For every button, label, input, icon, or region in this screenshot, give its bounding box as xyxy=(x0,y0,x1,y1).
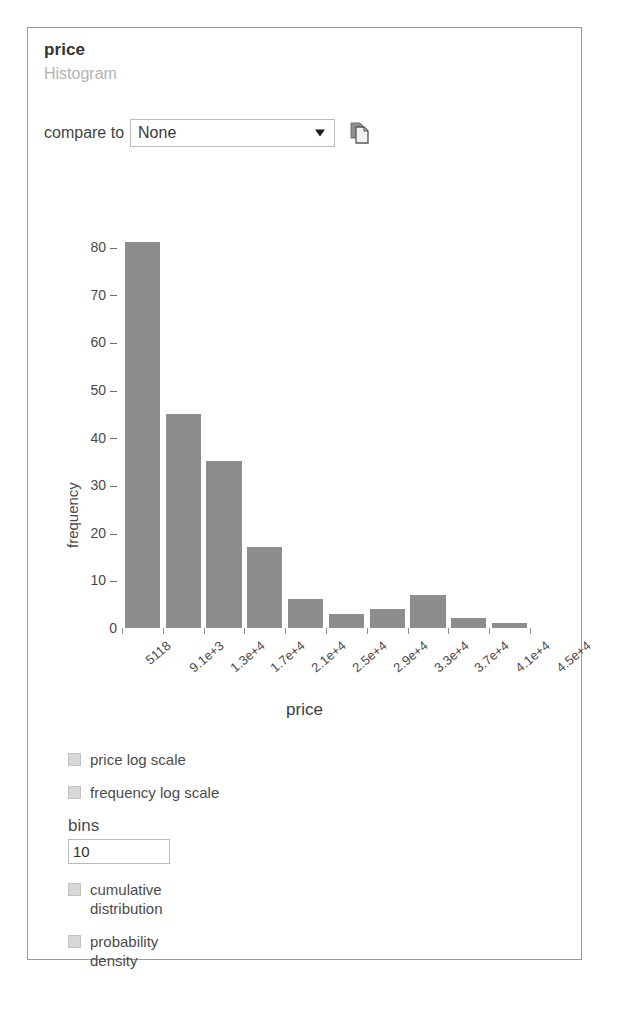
x-axis-tick-mark xyxy=(448,628,449,634)
bar xyxy=(329,614,364,628)
bar-slot xyxy=(408,228,449,628)
x-axis-tick-mark xyxy=(408,628,409,634)
x-axis-tick-label: 1.3e+4 xyxy=(227,638,267,675)
bar-slot xyxy=(326,228,367,628)
bins-input[interactable]: 10 xyxy=(68,839,170,864)
x-axis-tick-label: 2.5e+4 xyxy=(349,638,389,675)
x-axis-tick-label: 5118 xyxy=(143,638,174,667)
x-axis-tick-label: 9.1e+3 xyxy=(186,638,226,675)
x-axis-tick-label: 4.5e+4 xyxy=(553,638,593,675)
page-title: price xyxy=(44,40,85,60)
checkbox-icon xyxy=(68,935,81,948)
bar xyxy=(125,242,160,628)
checkbox-icon xyxy=(68,753,81,766)
histogram-panel: price Histogram compare to None frequenc… xyxy=(27,27,582,960)
compare-to-select[interactable]: None xyxy=(130,119,335,147)
compare-to-row: compare to None xyxy=(44,118,371,148)
x-axis-tick-label: 4.1e+4 xyxy=(513,638,553,675)
bar-slot xyxy=(448,228,489,628)
y-axis-tick: 20 xyxy=(90,525,122,541)
bar xyxy=(288,599,323,628)
y-axis-tick: 60 xyxy=(90,334,122,350)
cumulative-distribution-checkbox[interactable]: cumulative distribution xyxy=(68,880,368,918)
y-axis-tick: 10 xyxy=(90,572,122,588)
x-axis-tick-label: 3.7e+4 xyxy=(472,638,512,675)
histogram-chart: frequency 0102030405060708051189.1e+31.3… xyxy=(28,173,581,748)
chart-type-subtitle: Histogram xyxy=(44,65,117,83)
bar xyxy=(166,414,201,628)
x-axis-tick-mark xyxy=(204,628,205,634)
x-axis-tick-label: 2.1e+4 xyxy=(309,638,349,675)
x-axis-tick-mark xyxy=(122,628,123,634)
price-log-scale-checkbox[interactable]: price log scale xyxy=(68,750,368,769)
y-axis-tick: 50 xyxy=(90,382,122,398)
x-axis-tick-label: 2.9e+4 xyxy=(390,638,430,675)
x-axis-tick-mark xyxy=(367,628,368,634)
cumulative-distribution-label: cumulative distribution xyxy=(90,880,180,918)
bar xyxy=(492,623,527,628)
bar xyxy=(451,618,486,628)
x-axis-tick-mark xyxy=(244,628,245,634)
bins-label: bins xyxy=(68,816,368,836)
bar xyxy=(370,609,405,628)
y-axis-tick: 30 xyxy=(90,477,122,493)
x-axis-tick-mark xyxy=(285,628,286,634)
bar-slot xyxy=(489,228,530,628)
bar xyxy=(410,595,445,628)
bar-slot xyxy=(367,228,408,628)
bar-series xyxy=(122,228,530,628)
bar-slot xyxy=(122,228,163,628)
checkbox-icon xyxy=(68,883,81,896)
chevron-down-icon xyxy=(315,130,325,137)
bar-slot xyxy=(285,228,326,628)
y-axis-tick: 70 xyxy=(90,287,122,303)
x-axis-tick-mark xyxy=(163,628,164,634)
compare-to-value: None xyxy=(131,124,176,142)
bar-slot xyxy=(204,228,245,628)
y-axis-label: frequency xyxy=(64,482,81,548)
x-axis-tick-mark xyxy=(489,628,490,634)
compare-to-label: compare to xyxy=(44,124,124,142)
bar-slot xyxy=(163,228,204,628)
bar xyxy=(206,461,241,628)
x-axis-tick-mark xyxy=(326,628,327,634)
x-axis-label: price xyxy=(28,700,581,720)
price-log-scale-label: price log scale xyxy=(90,750,186,769)
copy-icon[interactable] xyxy=(349,121,371,145)
x-axis-tick-mark xyxy=(530,628,531,634)
bar xyxy=(247,547,282,628)
frequency-log-scale-checkbox[interactable]: frequency log scale xyxy=(68,783,368,802)
frequency-log-scale-label: frequency log scale xyxy=(90,783,219,802)
plot-area: 0102030405060708051189.1e+31.3e+41.7e+42… xyxy=(122,228,530,628)
probability-density-label: probability density xyxy=(90,932,180,970)
x-axis-tick-label: 1.7e+4 xyxy=(268,638,308,675)
chart-controls: price log scale frequency log scale bins… xyxy=(68,750,368,984)
y-axis-tick: 80 xyxy=(90,239,122,255)
x-axis-tick-label: 3.3e+4 xyxy=(431,638,471,675)
y-axis-tick: 40 xyxy=(90,430,122,446)
y-axis-tick: 0 xyxy=(109,620,122,636)
probability-density-checkbox[interactable]: probability density xyxy=(68,932,368,970)
checkbox-icon xyxy=(68,786,81,799)
bar-slot xyxy=(244,228,285,628)
